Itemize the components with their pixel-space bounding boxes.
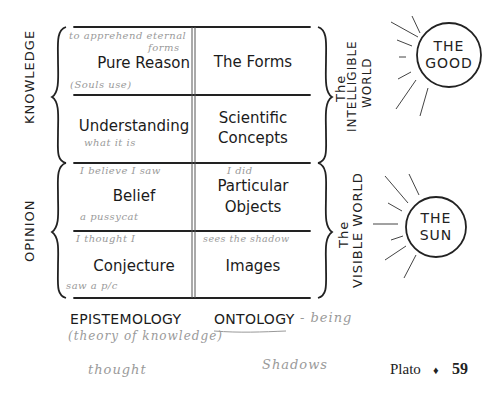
group-label-intelligible-world: WORLD (360, 57, 374, 108)
note-i-did: I did (227, 165, 253, 176)
page-number: 59 (452, 360, 468, 378)
cell-particular: Particular (196, 176, 310, 196)
group-label-opinion: OPINION (22, 200, 37, 262)
cell-scientific: Scientific (196, 108, 310, 128)
sun-good-line2: GOOD (417, 55, 481, 72)
group-label-knowledge: KNOWLEDGE (22, 30, 37, 124)
note-souls-use: (Souls use) (70, 79, 132, 90)
sun-good-label: THE GOOD (417, 38, 481, 72)
group-label-visible-the: The (336, 221, 351, 248)
cell-the-forms: The Forms (196, 52, 310, 72)
heading-epistemology: EPISTEMOLOGY (70, 311, 181, 327)
note-forms: forms (148, 42, 180, 53)
note-i-thought: I thought I (76, 233, 136, 244)
cell-objects: Objects (196, 197, 310, 217)
note-thought: thought (88, 362, 147, 377)
cell-understanding: Understanding (78, 116, 190, 136)
note-theory-of-knowledge: (theory of knowledge) (68, 329, 223, 343)
cell-pure-reason: Pure Reason (90, 53, 190, 73)
sun-good-line1: THE (417, 38, 481, 55)
sun-line1: THE (404, 210, 468, 227)
note-sees-shadow: sees the shadow (203, 233, 290, 244)
footer-separator: ♦ (433, 364, 439, 376)
cell-conjecture: Conjecture (78, 256, 190, 276)
note-what-it-is: what it is (84, 137, 136, 148)
group-label-intelligible: INTELLIGIBLE (345, 40, 359, 132)
brace-opinion (52, 163, 66, 298)
cell-concepts: Concepts (196, 128, 310, 148)
sun-line2: SUN (404, 227, 468, 244)
group-label-visible-world: VISIBLE WORLD (350, 172, 365, 288)
running-head: Plato (390, 361, 421, 378)
note-apprehend: to apprehend eternal (69, 30, 186, 41)
note-shadows: Shadows (262, 357, 328, 372)
brace-visible (318, 163, 332, 298)
cell-images: Images (196, 256, 310, 276)
sun-label: THE SUN (404, 210, 468, 244)
brace-intelligible (318, 27, 332, 163)
note-being: - being (300, 310, 352, 325)
heading-ontology: ONTOLOGY (214, 311, 295, 327)
note-believe-saw: I believe I saw (80, 165, 161, 176)
ontology-underline (214, 331, 286, 332)
note-saw-pc: saw a p/c (66, 280, 118, 291)
brace-knowledge (52, 27, 66, 163)
note-pussycat: a pussycat (80, 211, 138, 222)
cell-belief: Belief (78, 186, 190, 206)
